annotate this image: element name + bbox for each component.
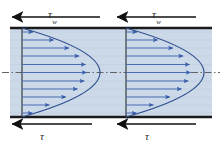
tau-subscript: w [156, 18, 161, 26]
tau-bottom-right-label: τw [145, 127, 154, 142]
channel-flow-figure: τw τw τw τw [0, 0, 222, 142]
tau-subscript: w [44, 140, 49, 142]
tau-bottom-left-label: τw [40, 127, 49, 142]
tau-subscript: w [52, 18, 57, 26]
flow-diagram-svg [0, 0, 222, 142]
tau-top-left-label: τw [48, 5, 57, 24]
tau-top-right-label: τw [152, 5, 161, 24]
tau-subscript: w [149, 140, 154, 142]
